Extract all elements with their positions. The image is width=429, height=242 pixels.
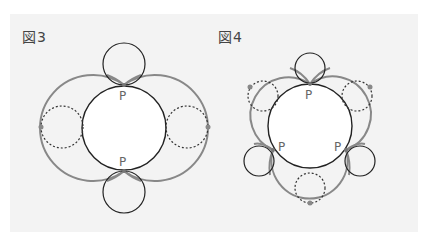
fig3-right-dotted-circle [166, 106, 208, 148]
fig3-right-dot [206, 125, 211, 130]
fig3-p-label-top: P [119, 89, 126, 103]
fig4-p-label-lower-left: P [278, 140, 285, 154]
fig3-left-dotted-circle [41, 106, 83, 148]
fig3-left-dot [39, 125, 44, 130]
fig4-point-p-lower-right [344, 148, 348, 152]
figure-3: P P [39, 43, 211, 213]
figure-4: P P P [244, 53, 375, 206]
fig4-upper-left-dot [248, 85, 253, 90]
fig4-upper-right-dot [368, 85, 373, 90]
fig3-point-p-bottom [122, 169, 126, 173]
fig4-point-p-top [308, 82, 312, 86]
fig4-top-circle [295, 53, 325, 83]
fig4-p-label-top: P [305, 88, 312, 102]
fig4-bottom-dot [308, 201, 313, 206]
diagram-canvas: P P P P P [0, 0, 429, 242]
fig3-p-label-bottom: P [119, 155, 126, 169]
fig4-point-p-lower-left [271, 148, 275, 152]
fig3-bottom-circle [103, 171, 145, 213]
fig3-point-p-top [122, 83, 126, 87]
fig4-p-label-lower-right: P [334, 140, 341, 154]
fig3-top-circle [103, 43, 145, 85]
